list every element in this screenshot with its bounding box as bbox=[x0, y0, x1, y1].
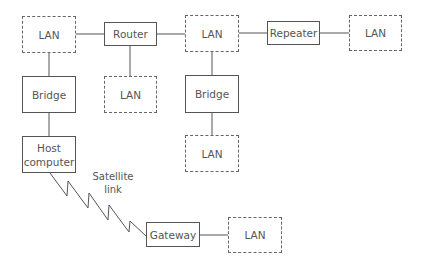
node-label: LAN bbox=[120, 88, 141, 102]
node-label: Bridge bbox=[195, 87, 229, 101]
lan-node-bottom: LAN bbox=[228, 217, 282, 253]
node-label: LAN bbox=[38, 28, 59, 42]
node-label: LAN bbox=[244, 228, 265, 242]
network-diagram: LAN Router LAN Repeater LAN Bridge LAN B… bbox=[0, 0, 422, 272]
node-label: LAN bbox=[365, 26, 386, 40]
lan-node-top-left: LAN bbox=[22, 16, 76, 53]
bridge-node-left: Bridge bbox=[22, 76, 76, 113]
host-computer-node: Host computer bbox=[22, 136, 76, 173]
router-node: Router bbox=[104, 22, 157, 46]
satellite-link-label: Satellite link bbox=[88, 170, 138, 196]
node-label-line1: Host bbox=[37, 141, 61, 155]
lan-node-under-router: LAN bbox=[104, 76, 157, 113]
node-label: LAN bbox=[201, 147, 222, 161]
label-line2: link bbox=[88, 183, 138, 196]
lan-node-top-middle: LAN bbox=[185, 15, 239, 52]
repeater-node: Repeater bbox=[267, 21, 320, 45]
node-label: Gateway bbox=[150, 228, 196, 242]
node-label-line2: computer bbox=[24, 155, 75, 169]
node-label: Bridge bbox=[32, 88, 66, 102]
node-label: Repeater bbox=[270, 26, 318, 40]
gateway-node: Gateway bbox=[146, 222, 200, 247]
node-label: Router bbox=[113, 27, 148, 41]
lan-node-under-bridge: LAN bbox=[185, 135, 239, 172]
node-label: LAN bbox=[201, 27, 222, 41]
label-line1: Satellite bbox=[88, 170, 138, 183]
bridge-node-middle: Bridge bbox=[185, 75, 239, 113]
lan-node-top-right: LAN bbox=[349, 15, 402, 51]
